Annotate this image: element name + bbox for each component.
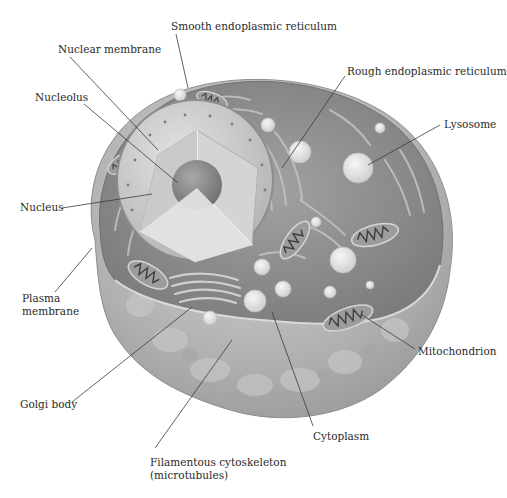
label-cytoplasm: Cytoplasm [313, 430, 369, 443]
label-nucleus: Nucleus [20, 201, 64, 214]
label-rough-er: Rough endoplasmic reticulum [347, 65, 507, 78]
label-nucleolus: Nucleolus [35, 91, 88, 104]
label-nuclear-membrane: Nuclear membrane [58, 43, 161, 56]
label-cytoskeleton: Filamentous cytoskeleton (microtubules) [150, 456, 320, 482]
label-mitochondrion: Mitochondrion [418, 345, 497, 358]
label-smooth-er: Smooth endoplasmic reticulum [171, 20, 337, 33]
cell-diagram: Smooth endoplasmic reticulum Nuclear mem… [0, 0, 507, 498]
label-lysosome: Lysosome [444, 118, 496, 131]
label-golgi-body: Golgi body [20, 398, 77, 411]
leader-smooth-er [176, 34, 188, 88]
leader-plasma-membrane [55, 248, 92, 292]
lysosome [343, 153, 373, 183]
label-plasma-membrane: Plasma membrane [22, 292, 92, 318]
